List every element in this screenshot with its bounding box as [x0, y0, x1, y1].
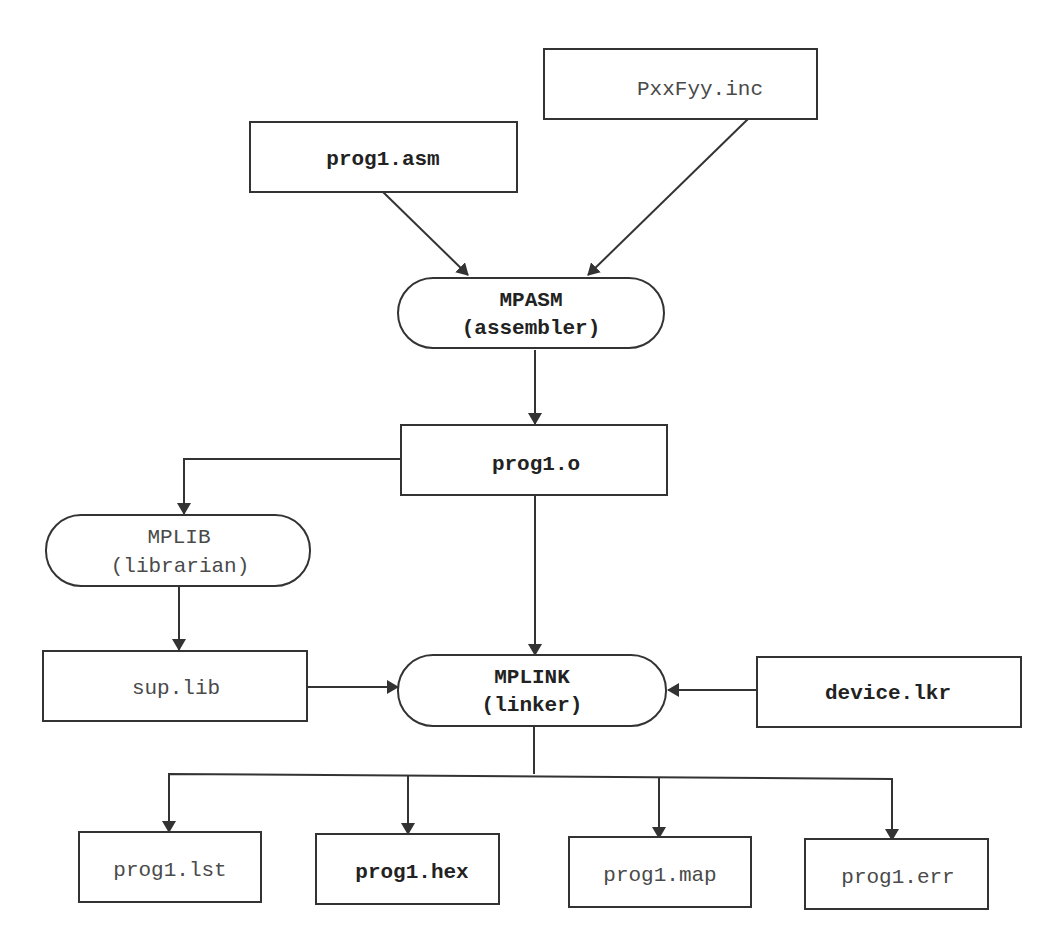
edge-inc-to-mpasm	[588, 119, 748, 275]
node-mpasm: MPASM (assembler)	[398, 278, 664, 348]
node-mplib-line2: (librarian)	[111, 555, 250, 578]
node-mpasm-line1: MPASM	[499, 289, 562, 312]
node-mplink-line2: (linker)	[482, 694, 583, 717]
node-prog1-lst: prog1.lst	[79, 832, 261, 902]
node-mplink: MPLINK (linker)	[398, 655, 666, 726]
node-prog1-asm: prog1.asm	[250, 122, 517, 192]
node-prog1-map-label: prog1.map	[603, 864, 716, 887]
edge-obj-to-mplib	[184, 459, 401, 514]
node-sup-lib: sup.lib	[43, 651, 307, 721]
node-mplink-line1: MPLINK	[494, 666, 570, 689]
toolchain-flowchart: prog1.asm PxxFyy.inc MPASM (assembler) p…	[0, 0, 1055, 941]
edge-output-bus	[169, 774, 892, 838]
node-prog1-err-label: prog1.err	[841, 866, 954, 889]
node-prog1-o-label: prog1.o	[492, 453, 580, 476]
node-prog1-err: prog1.err	[805, 839, 988, 909]
node-mplib-line1: MPLIB	[147, 526, 210, 549]
node-sup-lib-label: sup.lib	[132, 677, 220, 700]
node-mplib: MPLIB (librarian)	[46, 515, 310, 586]
node-pxxfyy-inc-label: PxxFyy.inc	[637, 78, 763, 101]
node-pxxfyy-inc: PxxFyy.inc	[544, 49, 817, 119]
node-prog1-hex-label: prog1.hex	[355, 861, 469, 884]
node-prog1-o: prog1.o	[401, 425, 667, 495]
node-device-lkr: device.lkr	[757, 657, 1021, 727]
node-mpasm-line2: (assembler)	[462, 317, 601, 340]
node-prog1-lst-label: prog1.lst	[113, 859, 226, 882]
node-prog1-hex: prog1.hex	[316, 834, 499, 904]
node-prog1-map: prog1.map	[569, 837, 751, 907]
node-prog1-asm-label: prog1.asm	[326, 148, 439, 171]
node-device-lkr-label: device.lkr	[825, 682, 951, 705]
edge-asm-to-mpasm	[383, 192, 468, 275]
